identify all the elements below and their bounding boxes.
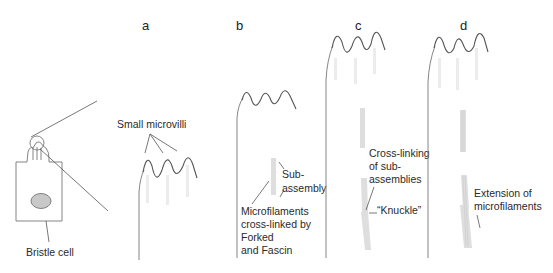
filament bbox=[334, 58, 337, 80]
microfilaments-crosslinked-label: Microfilaments cross-linked by Forked an… bbox=[241, 205, 314, 256]
cell-label-leader bbox=[46, 221, 49, 242]
panel-d: d Extension of microfilaments bbox=[428, 18, 542, 258]
panel-label-c: c bbox=[355, 18, 362, 33]
sub-assembly-filament bbox=[271, 158, 276, 195]
filament bbox=[354, 58, 357, 84]
microvilli-wave-d bbox=[434, 34, 488, 53]
bristle-development-diagram: Bristle cell a Small microvilli b Sub- a… bbox=[0, 0, 553, 273]
filament bbox=[456, 58, 459, 90]
panel-label-b: b bbox=[236, 18, 243, 33]
filament bbox=[438, 58, 441, 88]
sub-assembly-filament bbox=[361, 212, 371, 250]
cell-outline bbox=[16, 142, 62, 221]
filament bbox=[166, 175, 169, 205]
extended-filament-bundle-upper bbox=[460, 110, 466, 152]
filament bbox=[186, 165, 189, 197]
zoom-line-top bbox=[31, 101, 97, 137]
filament bbox=[475, 48, 478, 80]
microvilli-leader-1 bbox=[145, 134, 150, 153]
extension-label: Extension of microfilaments bbox=[474, 187, 542, 212]
extended-filament-bundle-lower bbox=[460, 175, 472, 248]
microfilaments-leader bbox=[252, 181, 269, 204]
small-microvilli-label: Small microvilli bbox=[117, 118, 186, 130]
sub-assembly-label: Sub- assembly bbox=[282, 168, 327, 194]
microvilli-wave-b bbox=[242, 91, 296, 109]
panel-label-d: d bbox=[460, 18, 467, 33]
microvilli-wave-c bbox=[332, 32, 385, 52]
sub-assembly-filament bbox=[360, 108, 365, 148]
microvilli-leader-3 bbox=[150, 134, 177, 151]
crosslinking-subassemblies-label: Cross-linking of sub- assemblies bbox=[369, 147, 433, 185]
panel-a: a Small microvilli bbox=[117, 18, 197, 260]
bristle-cell: Bristle cell bbox=[16, 101, 108, 258]
nucleus bbox=[31, 194, 51, 209]
knuckle-label: “Knuckle” bbox=[377, 204, 422, 216]
extension-leader bbox=[477, 215, 480, 228]
panel-b: b Sub- assembly Microfilaments cross-lin… bbox=[236, 18, 327, 258]
microvilli-leader-2 bbox=[150, 134, 163, 153]
filament bbox=[146, 175, 149, 203]
panel-label-a: a bbox=[142, 18, 150, 33]
bristle-cell-label: Bristle cell bbox=[26, 246, 74, 258]
bristle-outline-a bbox=[139, 170, 144, 260]
filament bbox=[373, 48, 376, 74]
bristle-outline-c bbox=[326, 45, 333, 258]
panel-c: c Cross-linking of sub- assemblies “Knuc… bbox=[326, 18, 433, 258]
